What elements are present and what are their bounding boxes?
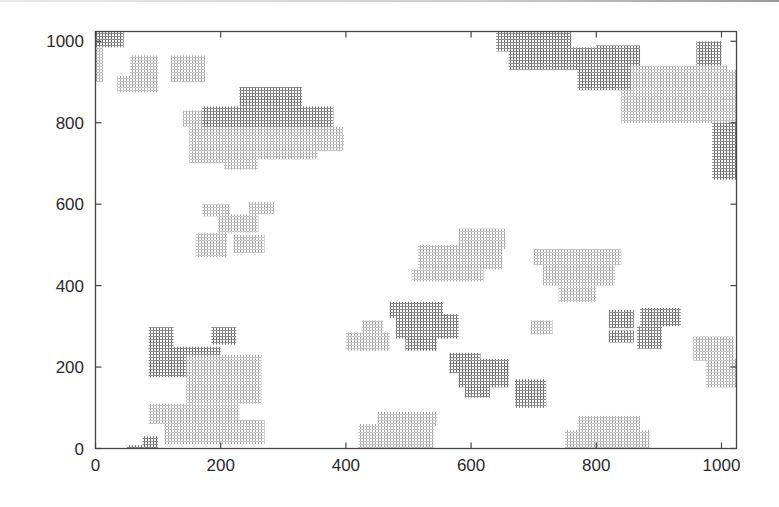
cluster-dark-18 [149, 327, 174, 349]
cluster-light-51 [565, 430, 650, 448]
cluster-dark-46 [609, 330, 634, 342]
cluster-dark-32 [459, 359, 509, 388]
cluster-dark-56 [696, 41, 721, 65]
x-axis-tick-labels: 02004006008001000 [91, 456, 741, 475]
y-axis-tick-labels: 02004006008001000 [46, 32, 84, 458]
cluster-light-37 [412, 269, 484, 281]
cluster-light-38 [377, 412, 437, 426]
x-tick-label: 400 [332, 456, 360, 475]
cluster-light-2 [130, 56, 158, 76]
cluster-dark-29 [396, 314, 459, 338]
cluster-light-1 [96, 47, 104, 82]
cluster-dark-61 [712, 123, 736, 180]
cluster-light-42 [559, 286, 597, 302]
cluster-light-15 [218, 214, 259, 232]
cluster-dark-33 [465, 385, 490, 397]
cluster-light-59 [659, 70, 737, 103]
cluster-light-49 [706, 359, 737, 388]
cluster-dark-45 [640, 308, 681, 326]
y-tick-label: 200 [56, 358, 84, 377]
cluster-light-23 [164, 420, 264, 444]
cluster-light-39 [358, 424, 433, 448]
cluster-dark-6 [240, 87, 303, 107]
cluster-light-40 [534, 249, 622, 265]
cluster-dark-30 [405, 337, 436, 351]
clusters-layer [96, 32, 737, 449]
cluster-light-50 [578, 416, 641, 432]
x-tick-label: 200 [207, 456, 235, 475]
cluster-dark-34 [515, 379, 546, 408]
cluster-light-4 [171, 56, 205, 83]
x-tick-label: 0 [91, 456, 100, 475]
y-tick-label: 800 [56, 114, 84, 133]
y-tick-label: 600 [56, 195, 84, 214]
cluster-dark-0 [96, 32, 124, 48]
cluster-dark-19 [211, 327, 236, 345]
x-tick-label: 600 [457, 456, 485, 475]
cluster-light-43 [531, 320, 553, 334]
cluster-light-16 [196, 233, 227, 257]
x-tick-label: 1000 [703, 456, 741, 475]
y-tick-label: 1000 [46, 32, 84, 51]
cluster-light-17 [233, 235, 264, 253]
cluster-light-11 [258, 151, 318, 159]
cluster-light-60 [715, 102, 736, 122]
y-tick-label: 0 [75, 440, 84, 459]
cluster-light-12 [315, 135, 344, 145]
cluster-light-21 [186, 355, 261, 404]
cluster-light-27 [346, 332, 390, 350]
y-tick-label: 400 [56, 277, 84, 296]
cluster-scatter-chart: 02004006008001000 02004006008001000 [0, 0, 779, 507]
cluster-dark-47 [637, 326, 662, 348]
cluster-light-3 [117, 76, 158, 92]
cluster-light-14 [249, 202, 274, 214]
cluster-light-41 [543, 265, 615, 285]
cluster-light-10 [224, 151, 258, 169]
cluster-light-26 [362, 320, 384, 334]
cluster-light-48 [693, 337, 734, 361]
cluster-light-36 [418, 245, 503, 269]
cluster-dark-44 [609, 310, 634, 328]
x-tick-label: 800 [582, 456, 610, 475]
